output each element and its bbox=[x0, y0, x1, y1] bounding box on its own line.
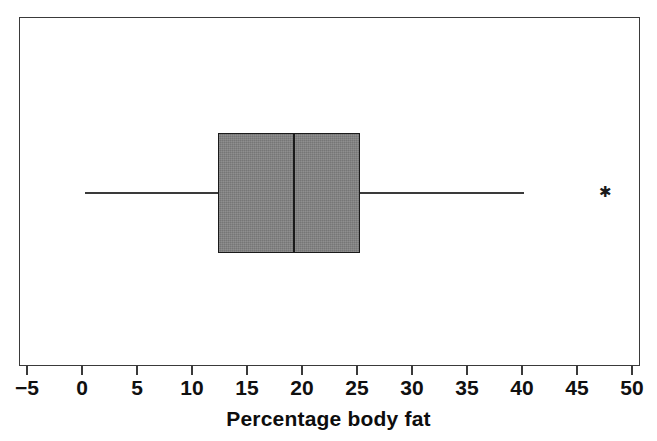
x-axis-tick-label: 20 bbox=[278, 376, 326, 400]
x-axis-tick-label: 0 bbox=[58, 376, 106, 400]
x-axis-tick bbox=[521, 366, 523, 375]
x-axis-tick-label: 25 bbox=[333, 376, 381, 400]
x-axis-tick-label: 35 bbox=[443, 376, 491, 400]
x-axis-tick-label: 15 bbox=[223, 376, 271, 400]
x-axis-tick bbox=[576, 366, 578, 375]
x-axis-tick bbox=[26, 366, 28, 375]
boxplot-whisker-high bbox=[360, 192, 524, 194]
x-axis-title: Percentage body fat bbox=[0, 407, 657, 431]
boxplot-figure: ✱ −505101520253035404550 Percentage body… bbox=[0, 0, 657, 441]
x-axis-tick-label: 40 bbox=[498, 376, 546, 400]
boxplot-outlier-marker: ✱ bbox=[599, 187, 610, 198]
x-axis-tick-label: 30 bbox=[388, 376, 436, 400]
x-axis-tick-label: 5 bbox=[113, 376, 161, 400]
x-axis-tick bbox=[191, 366, 193, 375]
x-axis-tick bbox=[246, 366, 248, 375]
x-axis-tick bbox=[301, 366, 303, 375]
x-axis-tick-label: −5 bbox=[3, 376, 51, 400]
x-axis-tick bbox=[466, 366, 468, 375]
boxplot-box bbox=[218, 133, 360, 253]
boxplot-median-line bbox=[293, 133, 295, 253]
x-axis-tick bbox=[411, 366, 413, 375]
x-axis-tick-label: 10 bbox=[168, 376, 216, 400]
x-axis-tick bbox=[356, 366, 358, 375]
boxplot-whisker-low bbox=[85, 192, 218, 194]
x-axis-tick-label: 45 bbox=[553, 376, 601, 400]
x-axis-tick bbox=[136, 366, 138, 375]
x-axis-tick bbox=[631, 366, 633, 375]
x-axis-tick-label: 50 bbox=[608, 376, 656, 400]
x-axis-tick bbox=[81, 366, 83, 375]
